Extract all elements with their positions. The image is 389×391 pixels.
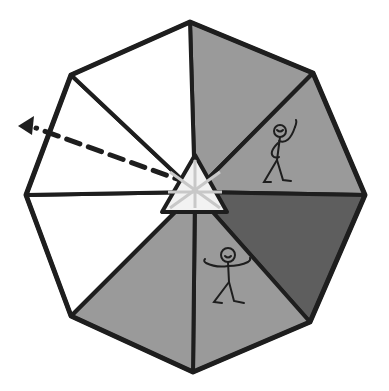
octagon-diagram [0, 0, 389, 391]
arrowhead-icon [18, 116, 34, 135]
illustration-canvas: octagonal umbrella/tent viewed from abov… [0, 0, 389, 391]
